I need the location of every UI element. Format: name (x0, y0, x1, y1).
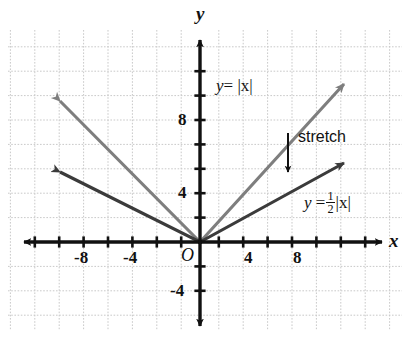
parent-function-label-variable: y (216, 76, 224, 95)
absolute-value-graph-figure: y x O -8 -4 4 8 8 4 -4 y= |x| stretch y … (0, 0, 409, 338)
x-tick-label-pos4: 4 (244, 249, 253, 266)
x-tick-label-pos8: 8 (293, 249, 302, 266)
grid-lines (8, 30, 402, 330)
stretched-function-label-variable: y (304, 193, 312, 212)
origin-label: O (181, 246, 194, 264)
x-axis-label: x (389, 231, 399, 250)
stretch-annotation-label: stretch (298, 129, 346, 145)
series-stretched-absolute-value (60, 163, 344, 242)
x-tick-label-neg8: -8 (74, 249, 88, 266)
stretched-function-label-equals: = (316, 193, 326, 212)
y-tick-label-neg4: -4 (170, 282, 184, 299)
y-axis-label: y (196, 4, 204, 23)
y-tick-label-8: 8 (178, 111, 187, 128)
fraction-numerator: 1 (326, 190, 334, 203)
y-tick-label-4: 4 (178, 184, 187, 201)
graph-canvas (0, 0, 409, 338)
parent-function-label: y= |x| (216, 77, 253, 94)
stretched-function-label-abs: |x| (336, 193, 351, 212)
parent-function-label-rest: = |x| (224, 76, 253, 95)
fraction-denominator: 2 (326, 203, 334, 215)
x-tick-label-neg4: -4 (123, 249, 137, 266)
stretched-function-label: y =12|x| (304, 190, 351, 216)
one-half-fraction: 12 (326, 190, 334, 216)
